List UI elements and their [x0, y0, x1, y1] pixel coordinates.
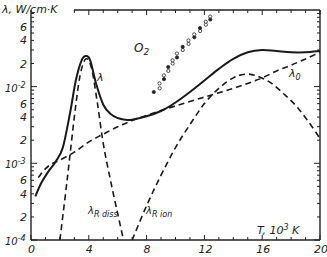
y-axis-label: λ, W/cm·K	[1, 3, 58, 16]
o2-data-point	[181, 45, 184, 48]
x-tick-label: 12	[198, 243, 212, 256]
o2-data-point	[158, 82, 161, 85]
x-tick-label: 8	[144, 243, 151, 256]
o2-data-point	[171, 62, 174, 65]
y-tick-label: 6	[20, 21, 27, 34]
y-tick-label: 4	[20, 34, 27, 47]
o2-data-point	[193, 33, 196, 36]
y-tick-label: 10-3	[5, 157, 26, 170]
lambda-r-diss-label: λR diss	[87, 205, 118, 219]
y-tick-label: 2	[20, 134, 27, 147]
o2-data-point	[181, 48, 184, 51]
o2-data-point	[209, 15, 212, 18]
y-tick-label: 2	[20, 211, 27, 224]
x-tick-label: 4	[86, 243, 93, 256]
o2-data-point	[198, 26, 201, 29]
y-tick-label: 2	[20, 58, 27, 71]
tick-labels: 04812162064210-264210-364210-4	[5, 21, 327, 256]
o2-data-point	[204, 20, 207, 23]
series-group	[35, 15, 320, 240]
lambda0-label: λ0	[288, 67, 301, 82]
y-tick-label: 6	[20, 98, 27, 111]
o2-data-point	[167, 65, 170, 68]
o2-data-point	[187, 42, 190, 45]
series--	[35, 50, 320, 196]
y-tick-label: 6	[20, 174, 27, 187]
o2-data-point	[175, 52, 178, 55]
o2-data-point	[162, 74, 165, 77]
o2-data-point	[171, 59, 174, 62]
x-tick-label: 20	[314, 243, 327, 256]
lambda-label: λ	[96, 71, 104, 84]
axes	[31, 10, 320, 240]
o2-label: O2	[134, 41, 149, 57]
o2-data-point	[158, 87, 161, 90]
y-tick-label: 4	[20, 111, 27, 124]
x-axis-label: T, 103 K	[257, 223, 300, 237]
ticks	[31, 10, 320, 240]
o2-data-point	[175, 56, 178, 59]
o2-data-point	[167, 69, 170, 72]
y-tick-label: 10-2	[5, 81, 26, 94]
y-tick-label: 10-4	[5, 234, 26, 247]
o2-data-point	[187, 39, 190, 42]
series--0	[38, 52, 320, 177]
x-tick-label: 16	[256, 243, 270, 256]
o2-data-point	[152, 90, 155, 93]
y-tick-label: 4	[20, 188, 27, 201]
o2-data-point	[162, 78, 165, 81]
thermal-conductivity-chart: 04812162064210-264210-364210-4 λ, W/cm·K…	[0, 0, 327, 257]
x-tick-label: 0	[28, 243, 35, 256]
lambda-r-ion-label: λR ion	[145, 205, 172, 219]
